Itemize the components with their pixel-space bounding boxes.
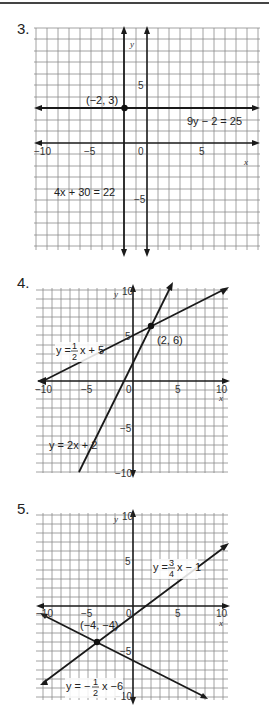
tick-x-m10: −10	[36, 608, 53, 619]
intersection-label: (−4, −4)	[80, 619, 119, 631]
svg-text:3: 3	[169, 558, 174, 568]
svg-text:1: 1	[72, 341, 77, 351]
graph-problem-3: y x −10 −5 0 5 5 −5 (−2, 3) 9y − 2 = 25 …	[0, 0, 269, 265]
equation-label-2: y = − 1 2 x −6	[65, 677, 123, 698]
tick-y-m10: −10	[115, 468, 132, 479]
svg-text:x − 1: x − 1	[177, 561, 201, 573]
arrow-icon	[121, 26, 127, 34]
equation-label-vertical: 4x + 30 = 22	[54, 186, 115, 198]
arrow-icon	[121, 249, 127, 257]
graph-problem-4: y x 10 5 −5 −10 −10 −5 0 5 10 (2, 6) y =…	[0, 270, 269, 480]
tick-x-m5: −5	[81, 384, 93, 395]
intersection-point	[148, 323, 154, 329]
equation-label-1: y = 3 4 x − 1	[152, 558, 201, 579]
equation-label-1: y = 1 2 x + 5	[55, 341, 104, 362]
y-axis-label: y	[113, 289, 118, 299]
arrow-icon	[34, 105, 42, 111]
tick-y-10: 10	[122, 286, 134, 297]
svg-text:y = −: y = −	[66, 680, 90, 692]
tick-y-m5: −5	[120, 423, 132, 434]
y-axis-arrow-up-icon	[144, 26, 150, 34]
x-axis-label: x	[243, 157, 248, 167]
tick-y-5: 5	[138, 80, 144, 91]
equation-label-2: y = 2x + 2	[49, 439, 97, 451]
svg-text:2: 2	[72, 352, 77, 362]
tick-x-0: 0	[126, 384, 132, 395]
intersection-point	[94, 639, 100, 645]
y-axis-label: y	[129, 39, 134, 49]
tick-y-5: 5	[125, 331, 131, 342]
tick-x-5: 5	[175, 608, 181, 619]
tick-y-m5: −5	[120, 646, 132, 657]
y-axis-label: y	[113, 514, 118, 524]
tick-x-m5: −5	[84, 146, 96, 157]
tick-x-10: 10	[216, 384, 228, 395]
tick-x-5: 5	[175, 384, 181, 395]
svg-text:y =: y =	[56, 344, 71, 356]
tick-x-5: 5	[199, 146, 205, 157]
tick-y-5: 5	[125, 556, 131, 567]
tick-x-m10: −10	[35, 384, 52, 395]
svg-text:y =: y =	[153, 561, 168, 573]
x-axis-label: x	[218, 618, 223, 628]
tick-y-10: 10	[122, 511, 134, 522]
tick-x-m5: −5	[81, 608, 93, 619]
svg-text:x −6: x −6	[102, 680, 123, 692]
intersection-label: (2, 6)	[157, 334, 183, 346]
tick-x-0: 0	[138, 146, 144, 157]
x-axis-arrow-right-icon	[252, 140, 260, 146]
arrow-icon	[220, 287, 229, 295]
svg-text:4: 4	[169, 569, 174, 579]
tick-x-m10: −10	[34, 146, 51, 157]
equation-label-horizontal: 9y − 2 = 25	[187, 115, 242, 127]
svg-text:1: 1	[93, 677, 98, 687]
tick-x-0: 0	[126, 608, 132, 619]
intersection-label: (−2, 3)	[86, 94, 118, 106]
svg-text:x + 5: x + 5	[80, 344, 104, 356]
intersection-point	[121, 105, 127, 111]
tick-x-10: 10	[216, 608, 228, 619]
svg-text:2: 2	[93, 688, 98, 698]
y-axis-arrow-down-icon	[144, 249, 150, 257]
graph-problem-5: y x 10 5 −5 −10 −10 −5 0 5 10 (−4, −4) y…	[0, 495, 269, 725]
tick-y-m5: −5	[134, 194, 146, 205]
arrow-icon	[252, 105, 260, 111]
